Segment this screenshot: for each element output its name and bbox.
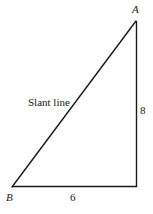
vertex-a-label: A [131, 3, 139, 15]
vertical-side-length-label: 8 [140, 104, 146, 116]
vertex-b-label: B [6, 191, 13, 203]
triangle-canvas: A B 8 6 Slant line [0, 0, 153, 214]
slant-line-label: Slant line [28, 96, 70, 108]
right-triangle-diagram: A B 8 6 Slant line [0, 0, 153, 214]
horizontal-side-length-label: 6 [70, 191, 76, 203]
